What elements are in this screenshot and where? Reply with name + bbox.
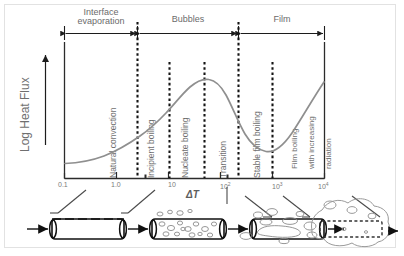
region-span-arrows xyxy=(65,26,325,40)
figure-vector-layer xyxy=(0,0,404,256)
boiling-curve-figure: Interface evaporation Bubbles Film Log H… xyxy=(0,0,404,256)
plot-axes xyxy=(65,42,325,179)
regime-divider-lines xyxy=(138,22,273,178)
schematic-tube-plain xyxy=(27,219,126,239)
x-axis-ticks xyxy=(65,172,325,179)
schematic-tube-bubbles xyxy=(128,209,226,239)
boiling-curve xyxy=(65,79,324,163)
